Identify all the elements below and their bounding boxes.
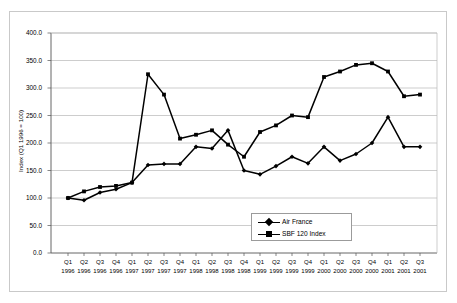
y-axis-tick-label: 200.0 <box>8 139 42 146</box>
y-axis-tick-label: 50.0 <box>8 222 42 229</box>
y-axis-tick-label: 0.0 <box>8 249 42 256</box>
y-axis-title: Index (Q1 1996 = 100) <box>17 110 24 172</box>
data-point-marker <box>66 196 70 200</box>
y-axis-tick-label: 350.0 <box>8 57 42 64</box>
data-point-marker <box>242 155 246 159</box>
data-point-marker <box>418 93 422 97</box>
x-axis-quarter-label: Q3 <box>411 259 429 265</box>
data-point-marker <box>82 190 86 194</box>
data-point-marker <box>82 198 87 203</box>
data-point-marker <box>322 75 326 79</box>
series-layer <box>66 61 423 202</box>
y-axis-tick-label: 250.0 <box>8 112 42 119</box>
data-point-marker <box>146 72 150 76</box>
data-point-marker <box>226 143 230 147</box>
data-point-marker <box>306 115 310 119</box>
data-point-marker <box>114 184 118 188</box>
data-point-marker <box>130 181 134 185</box>
data-point-marker <box>210 128 214 132</box>
y-axis-tick-label: 400.0 <box>8 29 42 36</box>
data-point-marker <box>290 114 294 118</box>
y-axis-tick-label: 300.0 <box>8 84 42 91</box>
data-point-marker <box>418 145 423 150</box>
legend-label: Air France <box>282 218 312 225</box>
data-point-marker <box>178 137 182 141</box>
data-point-marker <box>162 162 167 167</box>
data-point-marker <box>274 124 278 128</box>
data-point-marker <box>98 190 103 195</box>
data-point-marker <box>194 133 198 137</box>
y-axis-tick-label: 100.0 <box>8 194 42 201</box>
data-point-marker <box>338 70 342 74</box>
data-point-marker <box>98 185 102 189</box>
data-point-marker <box>370 61 374 65</box>
data-point-marker <box>258 130 262 134</box>
x-axis-year-label: 2001 <box>411 268 429 274</box>
legend-square-marker-icon <box>266 231 272 237</box>
legend-label: SBF 120 Index <box>282 230 326 237</box>
data-point-marker <box>402 94 406 98</box>
data-point-marker <box>386 70 390 74</box>
data-point-marker <box>242 168 247 173</box>
chart-legend[interactable]: Air France SBF 120 Index <box>251 213 352 241</box>
data-point-marker <box>162 93 166 97</box>
data-point-marker <box>354 63 358 67</box>
index-line-chart <box>0 0 457 303</box>
legend-diamond-marker-icon <box>265 218 273 226</box>
y-axis-tick-label: 150.0 <box>8 167 42 174</box>
